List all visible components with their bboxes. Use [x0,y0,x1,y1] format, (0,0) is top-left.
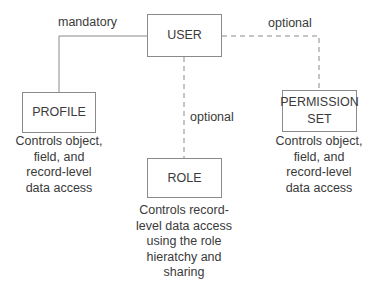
edge-user-profile [59,36,147,92]
node-user-label: USER [167,27,202,44]
node-profile-description: Controls object, field, and record-level… [2,134,116,196]
node-role: ROLE [147,158,222,198]
node-profile: PROFILE [22,92,96,133]
edge-label-optional-permission: optional [268,16,312,30]
edge-label-mandatory: mandatory [58,15,117,29]
node-user: USER [147,14,222,57]
edge-label-optional-role: optional [190,110,234,124]
node-role-description: Controls record- level data access using… [124,203,244,281]
edge-user-permission-set [222,36,319,90]
node-permission-set: PERMISSION SET [282,90,357,132]
diagram-canvas: mandatory optional optional USER PROFILE… [0,0,374,299]
node-profile-label: PROFILE [32,104,86,121]
node-role-label: ROLE [167,170,201,187]
node-permission-set-description: Controls object, field, and record-level… [262,134,374,196]
node-permission-set-label: PERMISSION SET [280,94,359,128]
